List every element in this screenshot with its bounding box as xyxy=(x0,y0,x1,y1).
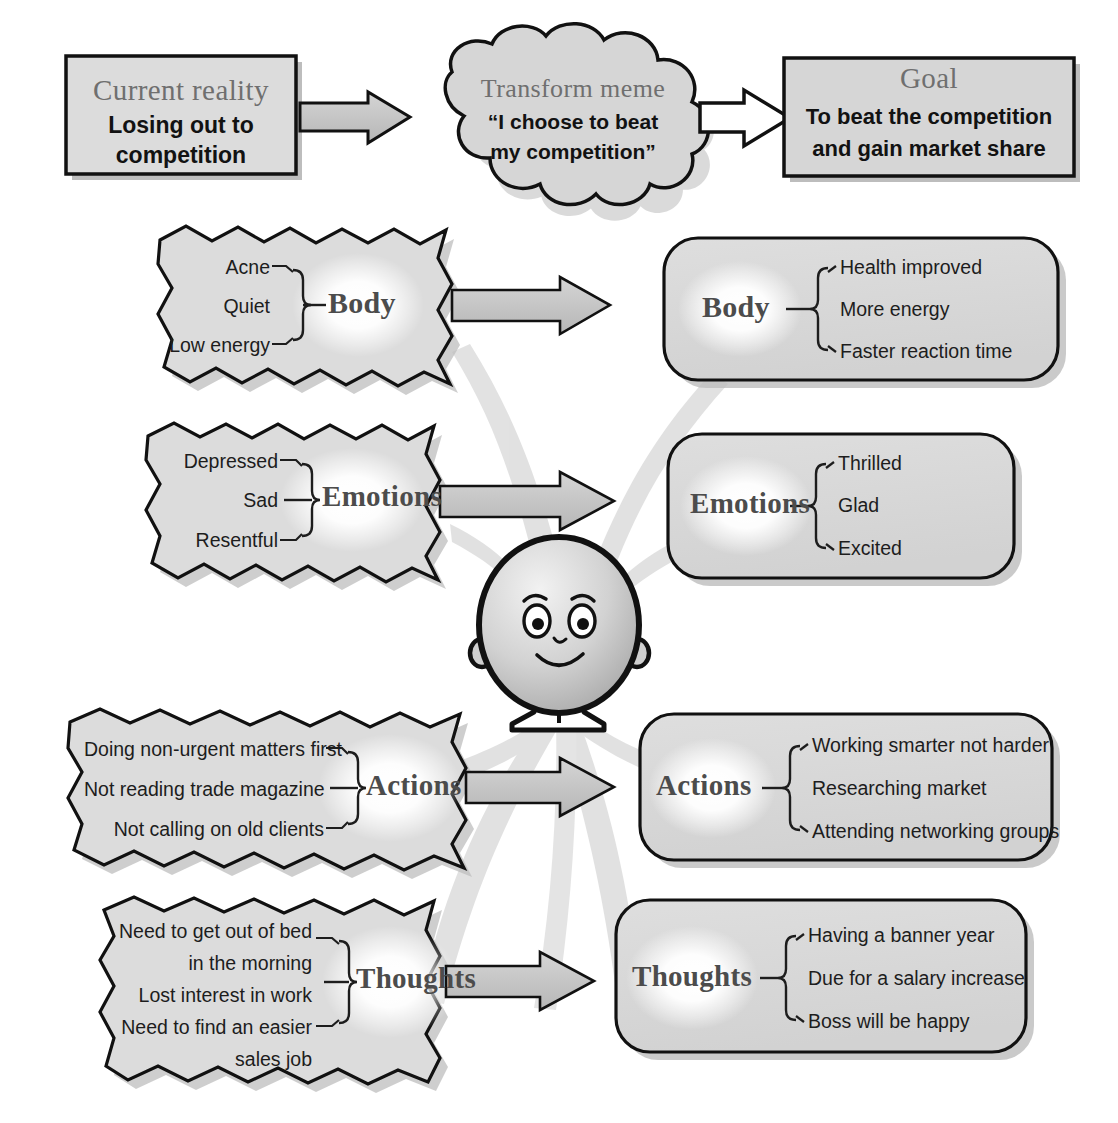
current-reality-line1: Losing out to xyxy=(66,112,296,139)
thoughts-left-node-label: Thoughts xyxy=(356,962,476,995)
thoughts-right-item-2: Boss will be happy xyxy=(808,1010,970,1033)
emotions-left-item-1: Sad xyxy=(158,489,278,512)
emotions-right-item-2: Excited xyxy=(838,537,902,560)
body-left-item-2: Low energy xyxy=(130,334,270,357)
emotions-left-item-0: Depressed xyxy=(158,450,278,473)
character-figure xyxy=(470,537,649,730)
figure-head xyxy=(479,537,639,713)
arrow-reality-to-meme xyxy=(300,92,410,143)
thoughts-right-item-1: Due for a salary increase xyxy=(808,967,1025,990)
goal-line1: To beat the competition xyxy=(784,104,1074,130)
goal-line2: and gain market share xyxy=(784,136,1074,162)
body-right-item-0: Health improved xyxy=(840,256,982,279)
current-reality-heading: Current reality xyxy=(66,74,296,107)
actions-left-node-label: Actions xyxy=(366,769,462,802)
emotions-right-node-label: Emotions xyxy=(690,487,810,520)
emotions-right-item-1: Glad xyxy=(838,494,879,517)
thoughts-left-item-1-line-0: Lost interest in work xyxy=(92,984,312,1007)
thoughts-left-item-0-line-0: Need to get out of bed xyxy=(92,920,312,943)
actions-left-item-1: Not reading trade magazine xyxy=(84,778,324,801)
diagram-canvas: Current reality Losing out to competitio… xyxy=(0,0,1118,1123)
transform-meme-line1: “I choose to beat xyxy=(440,110,706,134)
body-left-item-1: Quiet xyxy=(150,295,270,318)
actions-left-item-0: Doing non-urgent matters first xyxy=(84,738,324,761)
body-left-item-0: Acne xyxy=(150,256,270,279)
body-right-node-label: Body xyxy=(702,290,770,324)
transform-meme-heading: Transform meme xyxy=(440,74,706,104)
arrow-meme-to-goal xyxy=(700,90,790,146)
transform-meme-line2: my competition” xyxy=(440,140,706,164)
thoughts-right-item-0: Having a banner year xyxy=(808,924,994,947)
goal-heading: Goal xyxy=(784,62,1074,95)
actions-left-item-2: Not calling on old clients xyxy=(84,818,324,841)
body-right-item-1: More energy xyxy=(840,298,949,321)
thoughts-left-item-2-line-1: sales job xyxy=(92,1048,312,1071)
actions-right-item-2: Attending networking groups xyxy=(812,820,1059,843)
emotions-left-item-2: Resentful xyxy=(152,529,278,552)
emotions-left-node-label: Emotions xyxy=(322,480,442,513)
thoughts-left-item-2-line-0: Need to find an easier xyxy=(92,1016,312,1039)
thoughts-left-item-0-line-1: in the morning xyxy=(92,952,312,975)
emotions-right-item-0: Thrilled xyxy=(838,452,902,475)
body-left-node-label: Body xyxy=(328,286,396,320)
actions-right-item-1: Researching market xyxy=(812,777,987,800)
thoughts-right-node-label: Thoughts xyxy=(632,960,752,993)
current-reality-line2: competition xyxy=(66,142,296,169)
actions-right-node-label: Actions xyxy=(656,769,752,802)
body-right-item-2: Faster reaction time xyxy=(840,340,1012,363)
arrow-body xyxy=(452,277,610,334)
actions-right-item-0: Working smarter not harder xyxy=(812,734,1049,757)
